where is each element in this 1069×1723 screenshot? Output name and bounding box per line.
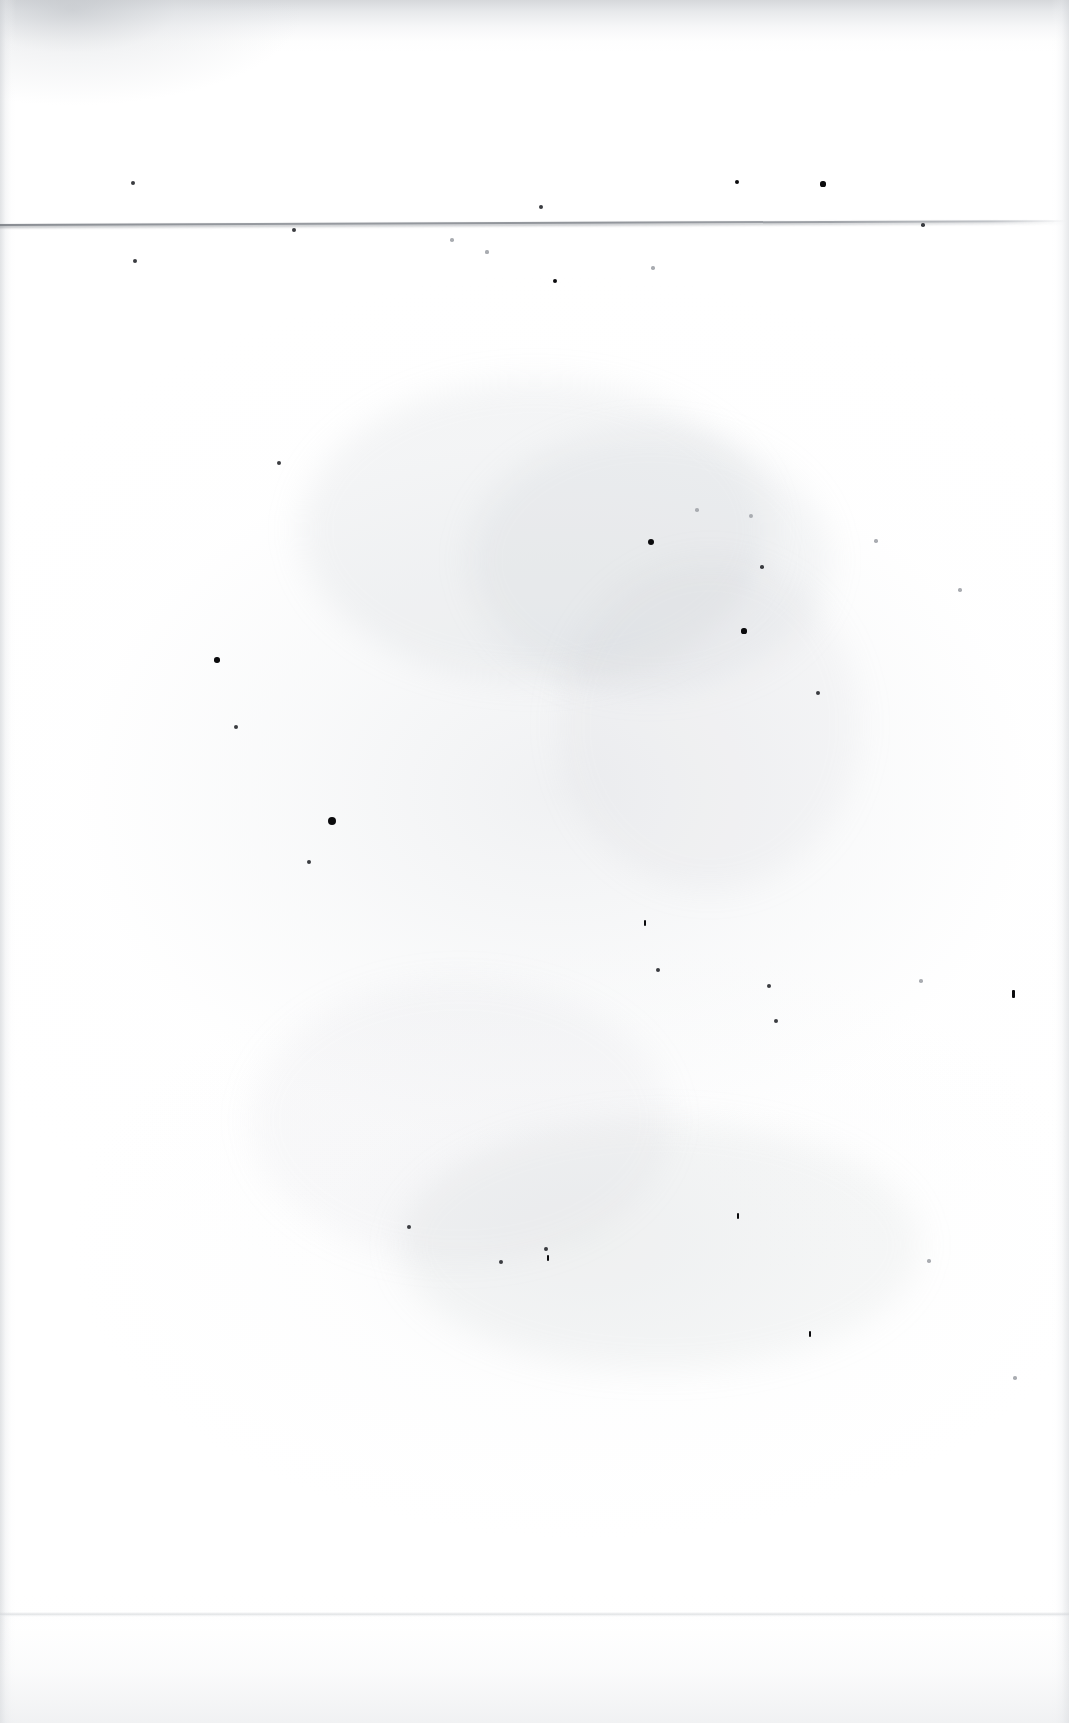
scan-speck [874,539,877,542]
scan-speck [921,223,925,227]
scan-speck [774,1019,778,1023]
scan-speck [741,628,746,633]
scan-speck [214,657,220,663]
scan-speck [539,205,543,209]
scan-speck [919,979,923,983]
scan-speck [749,514,753,518]
scan-speck [292,228,296,232]
scan-speck [328,817,336,825]
scan-speck [656,968,660,972]
scan-speck [644,920,646,926]
scan-speck [1012,990,1015,997]
scan-speck [485,250,488,253]
scan-speck [958,588,961,591]
right-edge-shadow [1051,0,1069,1723]
paper-background [0,0,1069,1723]
scanned-page [0,0,1069,1723]
scan-speck [1013,1376,1017,1380]
scan-speck [307,860,311,864]
left-edge-shadow [0,0,16,1723]
scan-speck [820,181,825,186]
scan-speck [651,266,654,269]
scan-speck [767,984,771,988]
scan-speck [695,508,699,512]
scan-speck [131,181,135,185]
bleed-through-patch [560,560,860,890]
bleed-through-patch [250,980,670,1260]
scan-speck [450,238,454,242]
scan-speck [499,1260,503,1264]
scan-speck [927,1259,930,1262]
top-left-smudge [0,0,330,130]
scan-speck [544,1247,548,1251]
bottom-scan-fade [0,1593,1069,1723]
scan-speck [760,565,764,569]
